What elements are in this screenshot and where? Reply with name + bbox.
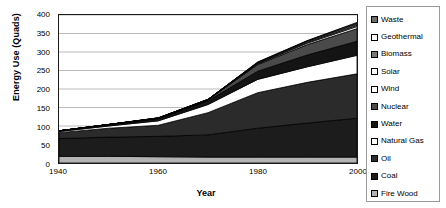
legend-item-label: Waste	[381, 16, 403, 24]
legend-item-solar[interactable]: Solar	[371, 63, 436, 80]
legend-item-label: Fire Wood	[381, 190, 418, 198]
legend-item-label: Water	[381, 120, 402, 128]
y-tick-label: 300	[37, 47, 50, 56]
energy-use-stacked-area-chart: Energy Use (Quads) 050100150200250300350…	[0, 0, 446, 208]
legend-item-nuclear[interactable]: Nuclear	[371, 98, 436, 115]
legend-swatch-icon	[371, 86, 378, 93]
legend-item-natural-gas[interactable]: Natural Gas	[371, 133, 436, 150]
legend-item-fire-wood[interactable]: Fire Wood	[371, 185, 436, 202]
legend-swatch-icon	[371, 34, 378, 41]
x-tick-label: 1940	[49, 167, 67, 176]
legend-swatch-icon	[371, 16, 378, 23]
chart-legend: WasteGeothermalBiomassSolarWindNuclearWa…	[366, 6, 440, 202]
y-tick-label: 400	[37, 10, 50, 19]
legend-item-label: Natural Gas	[381, 137, 424, 145]
y-axis-title: Energy Use (Quads)	[11, 0, 21, 117]
legend-item-label: Nuclear	[381, 103, 409, 111]
legend-swatch-icon	[371, 103, 378, 110]
legend-item-label: Biomass	[381, 50, 412, 58]
plot-area	[58, 14, 358, 164]
legend-swatch-icon	[371, 190, 378, 197]
y-tick-label: 150	[37, 103, 50, 112]
legend-item-biomass[interactable]: Biomass	[371, 46, 436, 63]
legend-item-waste[interactable]: Waste	[371, 11, 436, 28]
legend-item-oil[interactable]: Oil	[371, 150, 436, 167]
legend-item-label: Coal	[381, 172, 397, 180]
legend-item-geothermal[interactable]: Geothermal	[371, 28, 436, 45]
legend-swatch-icon	[371, 121, 378, 128]
legend-swatch-icon	[371, 138, 378, 145]
y-tick-label: 250	[37, 66, 50, 75]
legend-swatch-icon	[371, 173, 378, 180]
legend-item-coal[interactable]: Coal	[371, 168, 436, 185]
y-tick-label: 350	[37, 28, 50, 37]
legend-item-label: Solar	[381, 68, 400, 76]
legend-item-label: Geothermal	[381, 33, 423, 41]
legend-item-label: Oil	[381, 155, 391, 163]
x-tick-label: 1980	[249, 167, 267, 176]
y-tick-label: 50	[41, 141, 50, 150]
y-tick-label: 100	[37, 122, 50, 131]
stacked-area-svg	[59, 15, 357, 163]
legend-item-label: Wind	[381, 85, 399, 93]
legend-item-water[interactable]: Water	[371, 115, 436, 132]
y-axis-tick-labels: 050100150200250300350400	[26, 14, 54, 164]
legend-item-wind[interactable]: Wind	[371, 81, 436, 98]
x-tick-label: 2000	[349, 167, 367, 176]
x-tick-label: 1960	[149, 167, 167, 176]
legend-swatch-icon	[371, 51, 378, 58]
y-tick-label: 200	[37, 85, 50, 94]
x-axis-tick-labels: 1940196019802000	[58, 167, 358, 179]
x-axis-title: Year	[56, 188, 356, 198]
legend-swatch-icon	[371, 155, 378, 162]
legend-swatch-icon	[371, 68, 378, 75]
